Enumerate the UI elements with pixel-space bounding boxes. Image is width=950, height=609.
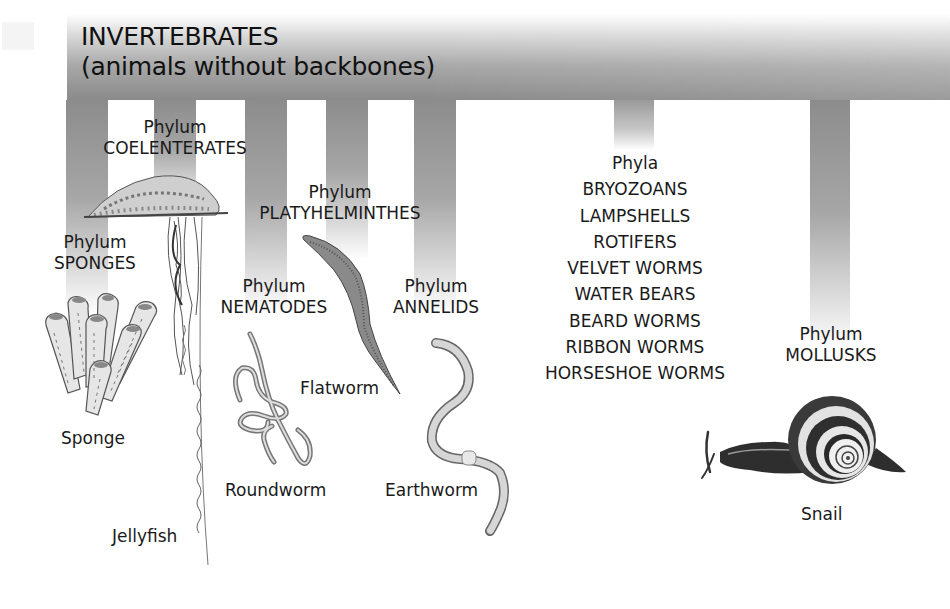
phylum-name-beard-worms: BEARD WORMS [530,308,740,334]
rank-text: Phyla [530,150,740,176]
title-line-2: (animals without backbones) [81,52,435,82]
caption-jellyfish: Jellyfish [112,526,177,546]
caption-snail: Snail [801,504,842,524]
roundworm-illustration [228,330,318,470]
label-coelenterates: Phylum COELENTERATES [100,117,250,159]
rank-text: Phylum [100,117,250,138]
caption-flatworm: Flatworm [300,378,379,398]
rank-text: Phylum [250,182,430,203]
phylum-name: COELENTERATES [100,138,250,159]
phylum-name-rotifers: ROTIFERS [530,229,740,255]
caption-sponge: Sponge [61,428,125,448]
pillar-mollusks [810,100,850,350]
label-platyhelminthes: Phylum PLATYHELMINTHES [250,182,430,224]
faint-corner-artifact [2,22,34,50]
phylum-name: MOLLUSKS [770,345,892,366]
caption-roundworm: Roundworm [225,480,326,500]
snail-illustration [700,392,910,497]
phylum-name-lampshells: LAMPSHELLS [530,203,740,229]
pillar-other-phyla [614,100,654,150]
diagram-title: INVERTEBRATES (animals without backbones… [81,22,435,82]
phylum-name-bryozoans: BRYOZOANS [530,176,740,202]
caption-earthworm: Earthworm [385,480,478,500]
earthworm-illustration [420,335,520,535]
phylum-name-water-bears: WATER BEARS [530,281,740,307]
phylum-name-ribbon-worms: RIBBON WORMS [530,334,740,360]
phylum-name-horseshoe-worms: HORSESHOE WORMS [530,360,740,386]
sponge-illustration [42,293,162,418]
label-other-phyla: Phyla BRYOZOANS LAMPSHELLS ROTIFERS VELV… [530,150,740,387]
rank-text: Phylum [770,324,892,345]
title-line-1: INVERTEBRATES [81,22,435,52]
label-mollusks: Phylum MOLLUSKS [770,324,892,366]
phylum-name: PLATYHELMINTHES [250,203,430,224]
phylum-name-velvet-worms: VELVET WORMS [530,255,740,281]
